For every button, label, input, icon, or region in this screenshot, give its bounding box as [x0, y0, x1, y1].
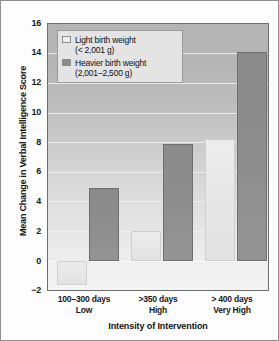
y-tick-16: 16	[1, 18, 41, 28]
x-tick-group3: > 400 days Very High	[195, 294, 269, 320]
y-tick-14: 14	[1, 47, 41, 57]
legend-label-light-line2: (< 2,001 g)	[75, 45, 136, 55]
legend-swatch-light-icon	[62, 36, 71, 43]
gridline-4	[48, 201, 268, 202]
gridline-12	[48, 83, 268, 84]
bar-dark-group3	[237, 52, 267, 261]
x-axis-tick-labels: 100–300 days Low >350 days High > 400 da…	[47, 294, 269, 320]
x-axis-title: Intensity of Intervention	[47, 321, 269, 331]
gridline-6	[48, 172, 268, 173]
bar-light-group2	[131, 231, 161, 261]
x-tick-group1: 100–300 days Low	[47, 294, 121, 320]
legend-swatch-dark-icon	[62, 59, 71, 66]
legend-label-dark-line1: Heavier birth weight	[75, 58, 146, 68]
x-tick-group2-line2: High	[121, 305, 195, 316]
y-tick-10: 10	[1, 107, 41, 117]
bar-dark-group1	[89, 188, 119, 261]
x-tick-group2-line1: >350 days	[138, 294, 177, 304]
bar-light-group1	[57, 261, 87, 285]
y-tick-8: 8	[1, 137, 41, 147]
legend-label-dark: Heavier birth weight (2,001–2,500 g)	[75, 58, 146, 78]
y-tick-4: 4	[1, 196, 41, 206]
bar-dark-group2	[163, 144, 193, 261]
gridline-8	[48, 142, 268, 143]
y-axis-tick-labels: 16 14 12 10 8 6 4 2 0 −2	[1, 1, 45, 341]
legend-entry-light-birth-weight: Light birth weight (< 2,001 g)	[62, 35, 178, 55]
legend-label-dark-line2: (2,001–2,500 g)	[75, 68, 146, 78]
figure-frame: Mean Change in Verbal Intelligence Score…	[0, 0, 279, 341]
x-tick-group2: >350 days High	[121, 294, 195, 320]
y-tick-12: 12	[1, 77, 41, 87]
x-tick-group3-line2: Very High	[195, 305, 269, 316]
y-tick-2: 2	[1, 226, 41, 236]
plot-area: Light birth weight (< 2,001 g) Heavier b…	[47, 23, 269, 291]
y-tick-0: 0	[1, 256, 41, 266]
bar-light-group3	[205, 139, 235, 261]
y-tick-minus2: −2	[1, 285, 41, 295]
x-tick-group3-line1: > 400 days	[211, 294, 252, 304]
legend-entry-heavier-birth-weight: Heavier birth weight (2,001–2,500 g)	[62, 58, 178, 78]
y-tick-6: 6	[1, 166, 41, 176]
legend-label-light: Light birth weight (< 2,001 g)	[75, 35, 136, 55]
gridline-10	[48, 113, 268, 114]
x-tick-group1-line1: 100–300 days	[58, 294, 110, 304]
legend-label-light-line1: Light birth weight	[75, 35, 136, 45]
x-tick-group1-line2: Low	[47, 305, 121, 316]
legend: Light birth weight (< 2,001 g) Heavier b…	[57, 30, 183, 83]
